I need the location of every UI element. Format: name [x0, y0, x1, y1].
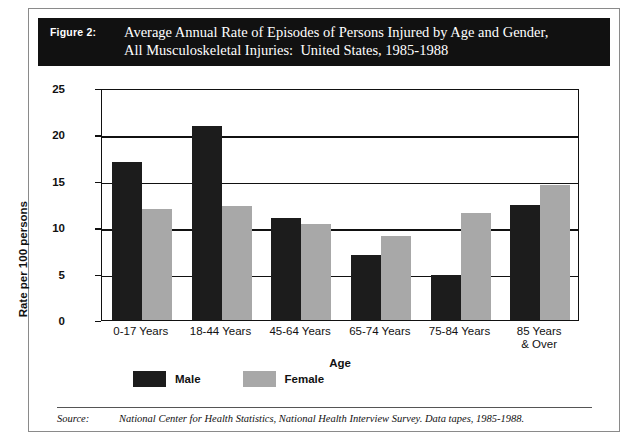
y-axis-tick-10	[95, 228, 101, 229]
x-axis-category-label: 85 Years& Over	[491, 325, 587, 351]
bar-series-container	[102, 90, 578, 320]
x-axis-title: Age	[101, 357, 579, 369]
bar-chart: Rate per 100 persons 0510152025 0-17 Yea…	[29, 67, 621, 397]
y-axis-tick-label-0: 0	[25, 315, 65, 327]
x-axis-category-line: & Over	[491, 338, 587, 351]
figure-title-line-2: All Musculoskeletal Injuries: United Sta…	[124, 41, 548, 59]
legend-item-female: Female	[243, 371, 325, 387]
bar-group	[431, 90, 491, 320]
figure-title-line-1: Average Annual Rate of Episodes of Perso…	[124, 23, 548, 41]
source-divider	[57, 407, 592, 408]
bar-group	[271, 90, 331, 320]
bar-group	[192, 90, 252, 320]
x-axis-labels: 0-17 Years18-44 Years45-64 Years65-74 Ye…	[101, 325, 579, 359]
y-axis-tick-0	[95, 321, 101, 322]
bar-female	[381, 236, 411, 320]
legend-label-male: Male	[175, 373, 201, 385]
figure-number-label: Figure 2:	[38, 23, 122, 41]
figure-page: Figure 2: Average Annual Rate of Episode…	[0, 0, 632, 445]
bar-female	[142, 209, 172, 320]
legend-swatch-male	[133, 371, 166, 387]
bar-male	[112, 162, 142, 320]
bar-group	[351, 90, 411, 320]
y-axis-tick-25	[95, 89, 101, 90]
figure-frame: Figure 2: Average Annual Rate of Episode…	[28, 8, 620, 432]
bar-male	[510, 205, 540, 320]
title-banner: Figure 2: Average Annual Rate of Episode…	[38, 18, 610, 66]
bar-female	[222, 206, 252, 320]
bar-female	[461, 213, 491, 320]
bar-group	[112, 90, 172, 320]
bar-male	[431, 275, 461, 320]
y-axis-tick-5	[95, 275, 101, 276]
legend-swatch-female	[243, 371, 276, 387]
y-axis-tick-label-10: 10	[25, 222, 65, 234]
bar-male	[351, 255, 381, 320]
chart-legend: Male Female	[133, 371, 366, 387]
bar-group	[510, 90, 570, 320]
figure-title: Average Annual Rate of Episodes of Perso…	[122, 23, 548, 59]
source-label: Source:	[57, 413, 119, 424]
plot-area	[101, 89, 579, 321]
bar-male	[271, 218, 301, 320]
y-axis-tick-label-20: 20	[25, 129, 65, 141]
y-axis-tick-20	[95, 135, 101, 136]
bar-female	[540, 185, 570, 320]
y-axis-tick-label-15: 15	[25, 176, 65, 188]
y-axis-tick-15	[95, 182, 101, 183]
bar-female	[301, 224, 331, 321]
y-axis-tick-label-25: 25	[25, 83, 65, 95]
x-axis-category-line: 85 Years	[491, 325, 587, 338]
source-text: National Center for Health Statistics, N…	[119, 413, 602, 424]
legend-label-female: Female	[285, 373, 325, 385]
bar-male	[192, 126, 222, 320]
legend-item-male: Male	[133, 371, 201, 387]
source-note: Source: National Center for Health Stati…	[57, 413, 602, 424]
y-axis-tick-label-5: 5	[25, 269, 65, 281]
y-axis-title: Rate per 100 persons	[17, 201, 29, 317]
